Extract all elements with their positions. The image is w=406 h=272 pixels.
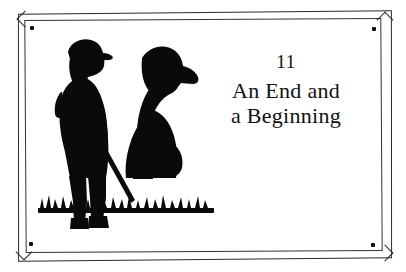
dog-silhouette bbox=[126, 46, 199, 179]
screw-dot-bottom-left bbox=[29, 242, 33, 246]
grass-ground bbox=[38, 195, 214, 213]
screw-dot-bottom-right bbox=[371, 243, 375, 247]
chapter-number: 11 bbox=[196, 52, 376, 71]
chapter-heading: 11 An End and a Beginning bbox=[196, 52, 376, 127]
screw-dot-top-right bbox=[372, 27, 376, 31]
chapter-opening-plate: 11 An End and a Beginning bbox=[0, 0, 406, 272]
chapter-title-line-2: a Beginning bbox=[196, 105, 376, 127]
chapter-title-line-1: An End and bbox=[196, 80, 376, 102]
